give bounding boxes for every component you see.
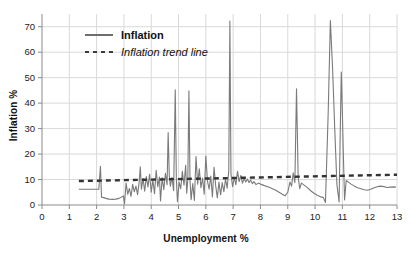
x-tick-label: 2: [85, 211, 109, 222]
x-tick-label: 3: [112, 211, 136, 222]
x-tick-label: 5: [167, 211, 191, 222]
y-tick-label: 10: [9, 174, 35, 185]
x-tick-label: 12: [358, 211, 382, 222]
y-tick-label: 30: [9, 123, 35, 134]
x-tick-label: 4: [139, 211, 163, 222]
legend-solid-line-icon: [84, 29, 114, 41]
legend-item-trend-line: Inflation trend line: [84, 43, 208, 60]
y-tick-label: 40: [9, 97, 35, 108]
chart-container: Inflation Inflation trend line Unemploym…: [0, 0, 412, 253]
x-tick-label: 7: [221, 211, 245, 222]
x-tick-label: 6: [194, 211, 218, 222]
legend-item-inflation: Inflation: [84, 26, 208, 43]
x-tick-label: 0: [30, 211, 54, 222]
x-tick-label: 10: [303, 211, 327, 222]
y-tick-label: 20: [9, 148, 35, 159]
x-tick-label: 13: [385, 211, 409, 222]
y-tick-label: 60: [9, 46, 35, 57]
x-tick-label: 1: [57, 211, 81, 222]
legend-label-inflation: Inflation: [121, 29, 164, 41]
chart-legend: Inflation Inflation trend line: [84, 26, 208, 60]
legend-label-trend-line: Inflation trend line: [121, 46, 208, 58]
legend-dotted-line-icon: [84, 46, 114, 58]
x-tick-label: 11: [330, 211, 354, 222]
y-tick-label: 70: [9, 21, 35, 32]
y-tick-label: 50: [9, 72, 35, 83]
x-tick-label: 8: [248, 211, 272, 222]
x-tick-label: 9: [276, 211, 300, 222]
y-tick-label: 0: [9, 199, 35, 210]
x-axis-title: Unemployment %: [0, 233, 412, 244]
